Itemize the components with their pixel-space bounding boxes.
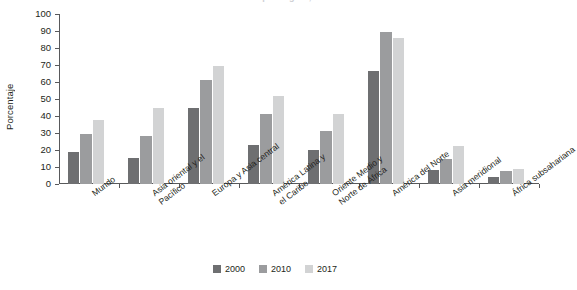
y-axis-tick-mark xyxy=(55,31,59,32)
legend-item[interactable]: 2017 xyxy=(305,264,337,274)
y-axis-tick-mark xyxy=(55,116,59,117)
y-axis-tick-mark xyxy=(55,150,59,151)
y-axis-tick-label: 80 xyxy=(21,43,51,53)
plot-area: 0102030405060708090100 xyxy=(59,14,539,184)
y-axis-tick-mark xyxy=(55,167,59,168)
x-axis-separator xyxy=(539,184,540,188)
y-axis-label: Porcentaje xyxy=(2,52,16,162)
y-axis-tick-label: 60 xyxy=(21,77,51,87)
y-axis-tick-label: 40 xyxy=(21,111,51,121)
y-axis-tick-label: 0 xyxy=(21,179,51,189)
legend-swatch-icon xyxy=(213,265,221,273)
bar-2017 xyxy=(333,114,345,184)
legend-swatch-icon xyxy=(259,265,267,273)
y-axis-tick-mark xyxy=(55,99,59,100)
bar-2010 xyxy=(500,171,512,184)
legend-label: 2010 xyxy=(271,264,291,274)
y-axis-tick-mark xyxy=(55,14,59,15)
bar-2000 xyxy=(68,152,80,184)
bar-2010 xyxy=(80,134,92,184)
bar-2017 xyxy=(213,66,225,184)
bar-2000 xyxy=(488,177,500,184)
y-axis-tick-label: 70 xyxy=(21,60,51,70)
legend-label: 2000 xyxy=(225,264,245,274)
legend-item[interactable]: 2000 xyxy=(213,264,245,274)
x-axis-separator xyxy=(119,184,120,188)
x-axis-separator xyxy=(239,184,240,188)
y-axis-tick-label: 90 xyxy=(21,26,51,36)
y-axis-tick-label: 10 xyxy=(21,162,51,172)
y-axis-tick-mark xyxy=(55,48,59,49)
y-axis-tick-mark xyxy=(55,133,59,134)
legend-swatch-icon xyxy=(305,265,313,273)
bar-2017 xyxy=(153,108,165,185)
y-axis-tick-mark xyxy=(55,82,59,83)
y-axis-line xyxy=(59,14,60,184)
y-axis-tick-label: 50 xyxy=(21,94,51,104)
y-axis-tick-label: 100 xyxy=(21,9,51,19)
bar-2017 xyxy=(393,38,405,184)
x-axis-separator xyxy=(419,184,420,188)
chart-legend: 200020102017 xyxy=(0,264,550,274)
y-axis-tick-mark xyxy=(55,65,59,66)
bar-2000 xyxy=(128,158,140,184)
bar-2017 xyxy=(453,146,465,184)
y-axis-tick-mark xyxy=(55,184,59,185)
x-axis-separator xyxy=(479,184,480,188)
y-axis-tick-label: 30 xyxy=(21,128,51,138)
bar-group xyxy=(68,14,105,184)
legend-label: 2017 xyxy=(317,264,337,274)
bar-group xyxy=(128,14,165,184)
y-axis-tick-label: 20 xyxy=(21,145,51,155)
legend-item[interactable]: 2010 xyxy=(259,264,291,274)
bar-2010 xyxy=(140,136,152,184)
bar-2017 xyxy=(93,120,105,184)
